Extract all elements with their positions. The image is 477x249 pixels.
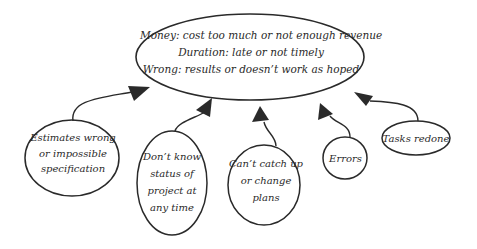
root-line-duration: Duration: late or not timely: [140, 44, 362, 61]
cause-estimates-line: Estimates wrong: [27, 130, 119, 146]
cause-estimates: Estimates wrong or impossible specificat…: [27, 130, 119, 177]
arrowhead-status: [196, 98, 212, 117]
root-text: Money: cost too much or not enough reven…: [140, 27, 362, 77]
connector-status: [175, 112, 205, 131]
cause-catchup: Can’t catch up or change plans: [228, 155, 304, 206]
cause-status: Don’t know status of project at any time: [137, 148, 207, 216]
cause-errors: Errors: [323, 151, 368, 167]
cause-catchup-line: Can’t catch up: [228, 155, 304, 172]
cause-errors-line: Errors: [323, 151, 368, 167]
connector-tasks: [370, 101, 418, 121]
cause-status-line: project at: [137, 182, 207, 199]
cause-estimates-line: or impossible: [27, 146, 119, 162]
connector-errors: [330, 116, 350, 137]
cause-tasks-line: Tasks redone: [382, 131, 450, 147]
cause-tasks: Tasks redone: [382, 131, 450, 147]
cause-estimates-line: specification: [27, 161, 119, 177]
cause-status-line: any time: [137, 199, 207, 216]
arrowhead-tasks: [354, 92, 373, 106]
connector-estimates: [73, 92, 132, 121]
connector-catchup: [264, 122, 276, 146]
cause-catchup-line: or change: [228, 172, 304, 189]
arrowhead-estimates: [128, 86, 150, 101]
cause-status-line: Don’t know: [137, 148, 207, 165]
arrowhead-catchup: [252, 106, 269, 122]
root-line-money: Money: cost too much or not enough reven…: [140, 27, 362, 44]
cause-status-line: status of: [137, 165, 207, 182]
root-line-wrong: Wrong: results or doesn’t work as hoped: [140, 61, 362, 78]
cause-catchup-line: plans: [228, 189, 304, 206]
